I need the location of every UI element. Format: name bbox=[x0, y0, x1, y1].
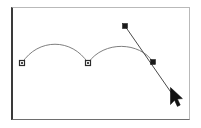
drawing-canvas[interactable] bbox=[11, 7, 190, 120]
application-window bbox=[0, 0, 201, 128]
